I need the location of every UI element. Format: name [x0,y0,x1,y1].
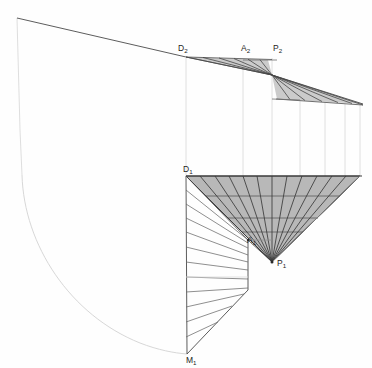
label-d1: D1 [183,164,193,175]
label-p1: P1 [277,258,287,269]
development-ray [186,262,248,270]
shaded-cone-projection [186,176,362,262]
front-view-fan [186,57,363,105]
development-ray [186,322,218,337]
point-marker-p1 [271,261,274,264]
outer-curve-group [17,18,187,354]
label-d2: D2 [178,43,188,54]
top-diagonal-chord [17,18,186,57]
development-ray [186,247,248,262]
development-ray [186,294,244,307]
development-ray [186,288,248,292]
development-left-edge [186,176,187,354]
large-arc-envelope [22,175,187,354]
left-vertical-envelope-edge [17,18,22,175]
drawing-canvas: D2 A2 P2 D1 A1 P1 M1 [0,0,372,368]
label-m1: M1 [186,355,197,366]
gray-triangle-fill [186,176,360,262]
label-p2: P2 [273,43,283,54]
geometry-figure: D2 A2 P2 D1 A1 P1 M1 [0,0,372,368]
label-a2: A2 [241,43,251,54]
